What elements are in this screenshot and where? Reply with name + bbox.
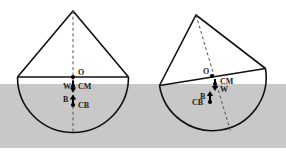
right-point-o-marker bbox=[210, 74, 214, 78]
water-region bbox=[0, 84, 286, 148]
right-weight-label: W bbox=[220, 85, 228, 94]
left-point-cm-label: CM bbox=[78, 82, 92, 91]
figure-canvas: O W CM B CB bbox=[0, 0, 286, 159]
left-buoyancy-label: B bbox=[63, 95, 69, 104]
left-point-o-marker bbox=[71, 75, 75, 79]
left-point-o-label: O bbox=[78, 68, 84, 77]
right-point-cm-label: CM bbox=[220, 77, 234, 86]
left-weight-label: W bbox=[63, 82, 71, 91]
right-point-cb-marker bbox=[208, 100, 212, 104]
right-point-o-label: O bbox=[203, 67, 209, 76]
right-point-cm-marker bbox=[213, 82, 217, 86]
left-point-cb-label: CB bbox=[78, 101, 90, 110]
left-point-cm-marker bbox=[71, 84, 75, 88]
right-point-cb-label: CB bbox=[192, 98, 204, 107]
left-point-cb-marker bbox=[71, 103, 75, 107]
floating-body-stability-figure: O W CM B CB bbox=[0, 0, 286, 159]
